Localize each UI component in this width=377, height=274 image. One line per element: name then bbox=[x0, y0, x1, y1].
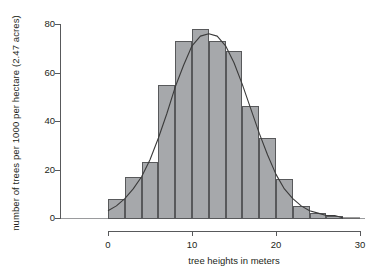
histogram-bar bbox=[226, 51, 243, 219]
x-tick bbox=[276, 231, 277, 236]
histogram-bar bbox=[158, 85, 175, 219]
histogram-bar bbox=[242, 106, 259, 219]
y-tick-label: 20 bbox=[15, 165, 55, 175]
histogram-bar bbox=[125, 177, 142, 219]
histogram-bar bbox=[142, 162, 159, 219]
y-tick-label: 0 bbox=[15, 213, 55, 223]
y-tick-label: 80 bbox=[15, 19, 55, 29]
histogram-bar bbox=[293, 206, 310, 219]
x-tick-label: 30 bbox=[340, 239, 377, 250]
x-tick bbox=[360, 231, 361, 236]
plot-area: 020406080 0102030 tree heights in meters bbox=[0, 0, 377, 274]
histogram-bar bbox=[209, 41, 226, 219]
x-axis-label: tree heights in meters bbox=[108, 255, 360, 266]
histogram-figure: number of trees per 1000 per hectare (2.… bbox=[0, 0, 377, 274]
y-tick bbox=[55, 73, 61, 74]
x-tick bbox=[192, 231, 193, 236]
y-tick bbox=[55, 218, 61, 219]
y-tick-label: 60 bbox=[15, 68, 55, 78]
x-axis-line bbox=[108, 231, 360, 232]
x-tick-label: 10 bbox=[172, 239, 212, 250]
y-tick bbox=[55, 121, 61, 122]
x-tick-label: 0 bbox=[88, 239, 128, 250]
y-tick-label: 40 bbox=[15, 116, 55, 126]
histogram-bar bbox=[310, 213, 327, 219]
y-tick bbox=[55, 170, 61, 171]
x-tick bbox=[108, 231, 109, 236]
histogram-bar bbox=[175, 41, 192, 219]
x-tick-label: 20 bbox=[256, 239, 296, 250]
y-tick bbox=[55, 24, 61, 25]
histogram-bar bbox=[259, 138, 276, 219]
histogram-bar bbox=[326, 216, 343, 219]
histogram-bar bbox=[192, 29, 209, 219]
histogram-bar bbox=[108, 199, 125, 219]
histogram-bar bbox=[276, 179, 293, 219]
